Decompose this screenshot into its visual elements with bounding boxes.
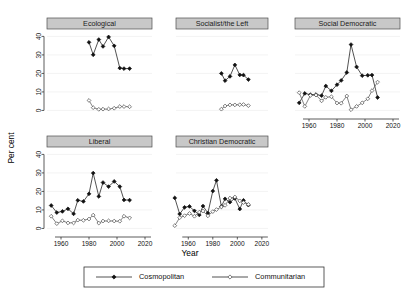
x-axis-tick-label: 1960: [54, 240, 69, 247]
data-point-communitarian: [173, 224, 177, 228]
panel-strip-label: Liberal: [89, 137, 111, 146]
x-axis-tick-label: 2020: [138, 240, 153, 247]
x-axis-tick-label: 1980: [82, 240, 97, 247]
panel-ecological: Ecological010203040: [35, 18, 152, 112]
data-point-cosmopolitan: [97, 38, 101, 42]
data-point-communitarian: [228, 103, 232, 107]
data-point-communitarian: [233, 103, 237, 107]
data-point-cosmopolitan: [376, 96, 380, 100]
panel-social-democratic: Social Democratic1960198020002020: [295, 18, 401, 129]
data-point-cosmopolitan: [211, 189, 215, 193]
y-axis-tick-label: 40: [35, 32, 42, 40]
data-point-cosmopolitan: [215, 178, 219, 182]
data-point-communitarian: [188, 212, 192, 216]
y-axis-tick-label: 0: [35, 108, 42, 112]
data-point-cosmopolitan: [122, 198, 126, 202]
x-axis-tick-label: 2000: [110, 240, 125, 247]
x-axis-tick-label: 2000: [358, 122, 373, 129]
legend: CosmopolitanCommunitarian: [84, 267, 324, 287]
data-point-communitarian: [303, 104, 307, 108]
data-point-communitarian: [122, 105, 126, 109]
data-point-cosmopolitan: [91, 53, 95, 57]
trellis-plot: Ecological010203040Socialist/the LeftSoc…: [0, 0, 405, 299]
data-point-communitarian: [112, 106, 116, 110]
x-axis-tick-label: 1980: [205, 240, 220, 247]
data-point-cosmopolitan: [101, 45, 105, 49]
y-axis-title: Per cent: [6, 132, 16, 164]
panel-strip-label: Social Democratic: [319, 19, 377, 28]
data-point-cosmopolitan: [173, 196, 177, 200]
legend-marker-cosmopolitan: [112, 275, 116, 279]
data-point-communitarian: [297, 91, 301, 95]
y-axis-tick-label: 20: [35, 187, 42, 195]
data-point-communitarian: [87, 99, 91, 103]
data-point-cosmopolitan: [320, 94, 324, 98]
data-point-communitarian: [66, 221, 70, 225]
data-point-communitarian: [91, 106, 95, 110]
data-point-cosmopolitan: [76, 198, 80, 202]
y-axis-tick-label: 10: [35, 88, 42, 96]
x-axis-tick-label: 2000: [230, 240, 245, 247]
legend-label-cosmopolitan: Cosmopolitan: [139, 272, 184, 281]
y-axis-tick-label: 0: [35, 226, 42, 230]
data-point-cosmopolitan: [128, 67, 132, 71]
panel-strip-label: Ecological: [83, 19, 116, 28]
data-point-communitarian: [376, 80, 380, 84]
data-point-communitarian: [242, 103, 246, 107]
y-axis-tick-label: 30: [35, 51, 42, 59]
data-point-communitarian: [246, 104, 250, 108]
data-point-communitarian: [118, 105, 122, 109]
data-point-communitarian: [101, 219, 105, 223]
data-point-cosmopolitan: [122, 67, 126, 71]
x-axis-tick-label: 1980: [330, 122, 345, 129]
x-axis-tick-label: 2020: [255, 240, 270, 247]
data-point-cosmopolitan: [219, 72, 223, 76]
data-point-communitarian: [128, 216, 132, 220]
data-point-cosmopolitan: [233, 63, 237, 67]
data-point-communitarian: [61, 219, 65, 223]
data-point-communitarian: [107, 219, 111, 223]
data-point-cosmopolitan: [349, 43, 353, 47]
y-axis-tick-label: 20: [35, 69, 42, 77]
chart-figure: Ecological010203040Socialist/the LeftSoc…: [0, 0, 405, 299]
y-axis-tick-label: 40: [35, 150, 42, 158]
x-axis-tick-label: 1960: [181, 240, 196, 247]
data-point-communitarian: [349, 108, 353, 112]
data-point-cosmopolitan: [360, 74, 364, 78]
panel-socialist-the-left: Socialist/the Left: [176, 18, 268, 111]
data-point-cosmopolitan: [91, 171, 95, 175]
panel-strip-label: Socialist/the Left: [196, 19, 249, 28]
data-point-communitarian: [183, 214, 187, 218]
data-point-cosmopolitan: [118, 66, 122, 70]
data-point-cosmopolitan: [87, 40, 91, 44]
data-point-communitarian: [76, 218, 80, 222]
x-axis-title: Year: [182, 248, 199, 258]
y-axis-tick-label: 10: [35, 206, 42, 214]
panel-christian-democratic: Christian Democratic1960198020002020: [173, 136, 270, 247]
data-point-communitarian: [112, 219, 116, 223]
data-point-communitarian: [355, 104, 359, 108]
legend-label-communitarian: Communitarian: [255, 272, 305, 281]
data-point-communitarian: [128, 105, 132, 109]
panel-liberal: Liberal0102030401960198020002020: [35, 136, 152, 247]
y-axis-tick-label: 30: [35, 169, 42, 177]
data-point-communitarian: [238, 103, 242, 107]
x-axis-tick-label: 1960: [302, 122, 317, 129]
data-point-communitarian: [82, 218, 86, 222]
legend-marker-communitarian: [228, 275, 232, 279]
data-point-communitarian: [178, 216, 182, 220]
data-point-cosmopolitan: [107, 35, 111, 39]
data-point-cosmopolitan: [97, 195, 101, 199]
x-axis-tick-label: 2020: [386, 122, 401, 129]
data-point-cosmopolitan: [128, 198, 132, 202]
data-point-cosmopolitan: [297, 101, 301, 105]
data-point-cosmopolitan: [366, 73, 370, 77]
data-point-cosmopolitan: [355, 65, 359, 69]
series-line-cosmopolitan: [89, 37, 130, 69]
data-point-cosmopolitan: [112, 44, 116, 48]
data-point-cosmopolitan: [238, 207, 242, 211]
data-point-communitarian: [72, 221, 76, 225]
panel-strip-label: Christian Democratic: [189, 137, 256, 146]
data-point-communitarian: [215, 208, 219, 212]
